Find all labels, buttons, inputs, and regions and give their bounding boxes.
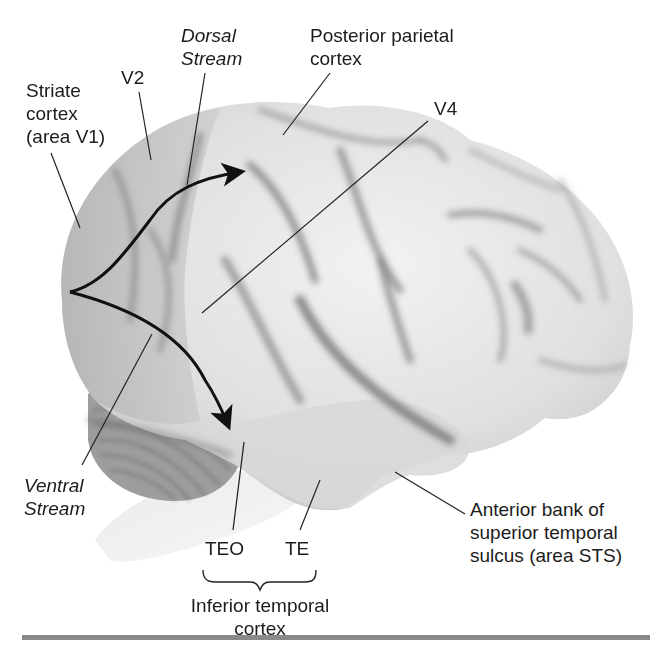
brain-diagram: Striate cortex (area V1) V2 Dorsal Strea… — [0, 0, 656, 665]
label-line: cortex — [26, 102, 105, 125]
label-posterior-parietal-cortex: Posterior parietal cortex — [310, 24, 454, 70]
label-line: (area V1) — [26, 125, 105, 148]
label-line: Stream — [181, 47, 242, 70]
label-dorsal-stream: Dorsal Stream — [181, 24, 242, 70]
label-teo: TEO — [205, 537, 244, 560]
label-line: cortex — [310, 47, 454, 70]
label-v4: V4 — [434, 97, 457, 120]
label-striate-cortex: Striate cortex (area V1) — [26, 79, 105, 148]
label-line: Inferior temporal — [185, 594, 335, 617]
label-line: Striate — [26, 79, 105, 102]
label-line: Stream — [24, 497, 85, 520]
leader-striate — [51, 153, 80, 228]
label-te: TE — [285, 537, 309, 560]
leader-sts — [395, 472, 465, 514]
label-line: Posterior parietal — [310, 24, 454, 47]
label-line: Ventral — [24, 474, 85, 497]
label-line: Anterior bank of — [470, 498, 622, 521]
label-v2: V2 — [121, 66, 144, 89]
label-ventral-stream: Ventral Stream — [24, 474, 85, 520]
label-line: superior temporal — [470, 521, 622, 544]
label-line: Dorsal — [181, 24, 242, 47]
label-anterior-bank-sts: Anterior bank of superior temporal sulcu… — [470, 498, 622, 567]
label-inferior-temporal-cortex: Inferior temporal cortex — [185, 594, 335, 640]
inferior-temporal-brace — [203, 570, 316, 590]
label-line: sulcus (area STS) — [470, 544, 622, 567]
bottom-rule — [22, 635, 650, 640]
